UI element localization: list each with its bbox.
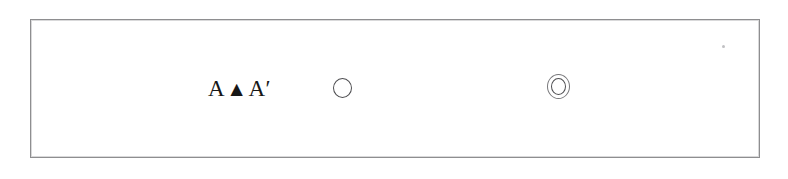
symbol-row: A ▲ A′ (0, 0, 788, 179)
concentric-circle-inner-ring-icon (551, 78, 566, 95)
scanned-figure-canvas: A ▲ A′ (0, 0, 788, 179)
double-circle-symbol (547, 70, 570, 102)
section-label-right: A′ (248, 77, 271, 100)
circle-outline-icon (333, 78, 352, 98)
concentric-circle-outline-icon (547, 74, 570, 99)
section-label-left: A (208, 77, 225, 100)
filled-triangle-icon: ▲ (226, 79, 247, 100)
label-a-triangle-a-prime: A ▲ A′ (208, 72, 271, 104)
single-circle-symbol (333, 72, 352, 104)
